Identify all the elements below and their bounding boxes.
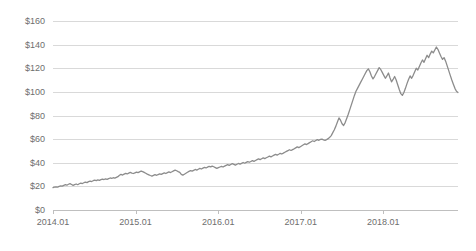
y-tick-label: $80 xyxy=(5,111,45,121)
y-tick-label: $100 xyxy=(5,87,45,97)
y-tick-label: $0 xyxy=(5,205,45,215)
y-tick-label: $20 xyxy=(5,181,45,191)
line-chart: $0$20$40$60$80$100$120$140$160 2014.0120… xyxy=(0,0,476,251)
x-tick-label: 2015.01 xyxy=(106,217,166,227)
y-tick-label: $140 xyxy=(5,40,45,50)
x-tick-label: 2014.01 xyxy=(23,217,83,227)
y-tick-label: $120 xyxy=(5,63,45,73)
y-tick-label: $40 xyxy=(5,158,45,168)
y-tick-label: $60 xyxy=(5,134,45,144)
x-tick-label: 2017.01 xyxy=(271,217,331,227)
chart-plot-area xyxy=(0,0,476,251)
x-tick-label: 2018.01 xyxy=(353,217,413,227)
gridlines-group xyxy=(53,22,458,211)
y-tick-label: $160 xyxy=(5,16,45,26)
x-tick-label: 2016.01 xyxy=(188,217,248,227)
